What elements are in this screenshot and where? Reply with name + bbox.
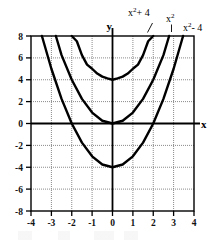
coordinate-plane: y x 8 6 4 2 0 -2 -4 -6 -8 -4 -3 -2 -1 0 … <box>0 0 218 240</box>
x-tick-label: -3 <box>47 218 55 228</box>
curve-annotations: x2+ 4 x2 x2- 4 <box>128 6 202 33</box>
y-tick-labels: 8 6 4 2 0 -2 -4 -6 -8 <box>15 32 23 217</box>
curve-label-exponent: 2 <box>171 12 175 20</box>
x-tick-label: 2 <box>151 218 156 228</box>
x-tick-label: 0 <box>110 218 115 228</box>
x-tick-label: 4 <box>192 218 197 228</box>
y-tick-marks <box>26 36 31 211</box>
y-tick-label: -4 <box>15 163 23 173</box>
y-axis-label: y <box>107 20 113 32</box>
y-tick-label: -8 <box>15 207 23 217</box>
x-tick-label: -4 <box>27 218 35 228</box>
y-tick-label: 0 <box>18 119 23 129</box>
y-tick-label: 8 <box>18 32 23 42</box>
y-tick-label: 4 <box>18 75 23 85</box>
y-tick-label: -2 <box>15 141 23 151</box>
curve-label-x2-plus-4: x2+ 4 <box>128 6 150 18</box>
parabola-figure: y x 8 6 4 2 0 -2 -4 -6 -8 -4 -3 -2 -1 0 … <box>0 0 218 240</box>
x-tick-labels: -4 -3 -2 -1 0 1 2 3 4 <box>27 218 197 228</box>
x-tick-marks <box>31 211 194 216</box>
curve-label-tail: + 4 <box>137 7 150 18</box>
curve-label-x2-minus-4: x2- 4 <box>183 21 202 33</box>
cropped-caption-artifact <box>18 231 138 240</box>
x-tick-label: -1 <box>88 218 96 228</box>
y-tick-label: 2 <box>18 97 23 107</box>
curve-label-x2: x2 <box>166 12 175 24</box>
x-axis-label: x <box>201 118 207 130</box>
x-tick-label: 1 <box>131 218 136 228</box>
x-tick-label: 3 <box>171 218 176 228</box>
y-tick-label: -6 <box>15 185 23 195</box>
leader-line-x2-plus-4 <box>148 23 153 33</box>
y-tick-label: 6 <box>18 53 23 63</box>
x-tick-label: -2 <box>68 218 76 228</box>
curve-label-tail: - 4 <box>192 22 203 33</box>
